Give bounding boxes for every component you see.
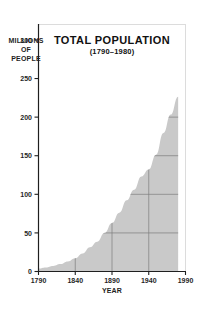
y-tick-label: 0 xyxy=(28,268,32,275)
x-tick-label: 1790 xyxy=(31,277,47,284)
x-tick-label: 1840 xyxy=(67,277,83,284)
chart-canvas: 050100150200250300 17901840189019401990 … xyxy=(0,0,199,309)
chart-title: TOTAL POPULATION xyxy=(54,34,170,46)
y-tick-label: 250 xyxy=(20,75,32,82)
population-chart: 050100150200250300 17901840189019401990 … xyxy=(0,0,199,309)
x-tick-label: 1940 xyxy=(141,277,157,284)
y-axis-label-line1: MILLIONS xyxy=(8,37,43,44)
y-tick-label: 100 xyxy=(20,191,32,198)
x-axis-title: YEAR xyxy=(102,287,122,294)
y-axis-label-line3: PEOPLE xyxy=(11,55,41,62)
x-tick-label: 1990 xyxy=(178,277,194,284)
y-axis-label-line2: OF xyxy=(21,46,32,53)
y-tick-label: 150 xyxy=(20,152,32,159)
chart-subtitle: (1790–1980) xyxy=(90,47,135,56)
y-tick-label: 50 xyxy=(24,230,32,237)
y-tick-label: 200 xyxy=(20,114,32,121)
x-tick-label: 1890 xyxy=(104,277,120,284)
